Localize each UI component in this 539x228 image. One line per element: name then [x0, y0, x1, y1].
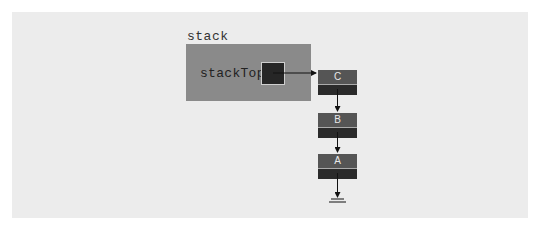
ground-null-icon [329, 173, 346, 202]
pointer-arrows [0, 0, 539, 228]
